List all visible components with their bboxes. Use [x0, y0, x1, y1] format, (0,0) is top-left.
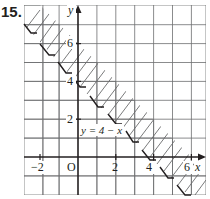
y-tick-label: 6	[67, 36, 73, 50]
x-axis-label: x	[194, 160, 201, 174]
boundary-equation-label: y = 4 − x	[80, 124, 122, 136]
x-tick-label: 2	[112, 160, 118, 174]
origin-label: O	[67, 160, 76, 174]
x-tick-label: −2	[31, 160, 44, 174]
y-tick-label: 2	[67, 112, 73, 126]
inequality-graph: −2 O 2 4 6 x 2 4 6 y y = 4 − x	[0, 0, 210, 199]
y-tick-label: 4	[67, 74, 73, 88]
x-tick-label: 6	[184, 160, 190, 174]
x-tick-label: 4	[146, 160, 152, 174]
y-axis-label: y	[67, 3, 74, 17]
